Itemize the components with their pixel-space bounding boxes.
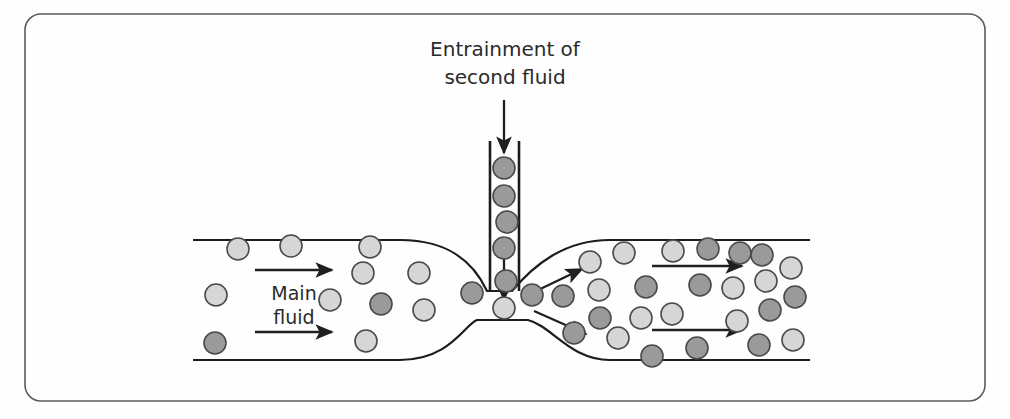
particle-outlet-light	[722, 277, 744, 299]
particle-outlet-light	[613, 242, 635, 264]
particle-outlet-dark	[641, 345, 663, 367]
particle-outlet-dark	[689, 274, 711, 296]
particle-outlet-dark	[759, 299, 781, 321]
particle-tube-dark	[496, 211, 518, 233]
particle-outlet-light	[755, 270, 777, 292]
particle-outlet-light	[662, 240, 684, 262]
particle-outlet-dark	[521, 284, 543, 306]
particle-outlet-dark	[729, 242, 751, 264]
particle-inlet-dark	[370, 293, 392, 315]
particle-tube-dark	[493, 185, 515, 207]
particle-outlet-light	[607, 327, 629, 349]
particle-tube-light	[493, 297, 515, 319]
entrainment-label-line1: Entrainment of	[430, 37, 581, 61]
particle-tube-dark	[493, 237, 515, 259]
particle-inlet-dark	[204, 332, 226, 354]
diagram-canvas: Entrainment of second fluid Main fluid	[0, 0, 1010, 419]
particle-inlet-dark	[461, 282, 483, 304]
particle-inlet-light	[205, 284, 227, 306]
particle-inlet-light	[355, 330, 377, 352]
particle-inlet-light	[352, 262, 374, 284]
particle-outlet-dark	[635, 276, 657, 298]
particle-outlet-dark	[589, 307, 611, 329]
main-fluid-label-line1: Main	[271, 282, 316, 304]
entrainment-label-line2: second fluid	[444, 65, 565, 89]
particle-inlet-light	[319, 289, 341, 311]
particle-tube-dark	[495, 270, 517, 292]
particle-inlet-light	[280, 235, 302, 257]
particle-outlet-dark	[552, 285, 574, 307]
particle-outlet-light	[630, 307, 652, 329]
particle-outlet-light	[579, 251, 601, 273]
particle-outlet-dark	[748, 334, 770, 356]
particle-inlet-light	[408, 262, 430, 284]
diagram-figure: Entrainment of second fluid Main fluid	[0, 0, 1010, 419]
particle-outlet-dark	[686, 337, 708, 359]
particle-tube-dark	[493, 157, 515, 179]
particle-outlet-light	[661, 303, 683, 325]
particle-outlet-light	[588, 279, 610, 301]
particle-inlet-light	[227, 238, 249, 260]
particle-outlet-light	[726, 310, 748, 332]
particle-outlet-dark	[563, 322, 585, 344]
particle-outlet-dark	[751, 244, 773, 266]
particle-inlet-light	[413, 299, 435, 321]
particle-outlet-dark	[784, 286, 806, 308]
particle-outlet-dark	[697, 238, 719, 260]
particle-outlet-light	[780, 257, 802, 279]
particle-inlet-light	[359, 236, 381, 258]
main-fluid-label-line2: fluid	[273, 306, 314, 328]
particle-outlet-light	[782, 329, 804, 351]
